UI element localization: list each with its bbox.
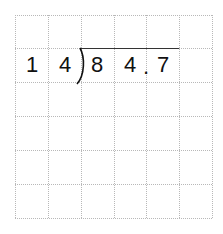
divisor-digit-ones: 4: [59, 54, 71, 76]
grid-line: [15, 218, 212, 219]
dividend-digit-ones: 4: [124, 54, 136, 76]
decimal-point: .: [143, 56, 149, 78]
divisor-digit-tens: 1: [26, 54, 38, 76]
grid-line: [15, 150, 212, 151]
division-grid: 1 4 8 4 . 7: [15, 15, 212, 218]
grid-line: [212, 15, 213, 218]
grid-line: [15, 184, 212, 185]
division-overline: [80, 48, 179, 49]
dividend-digit-tenths: 7: [157, 54, 169, 76]
grid-line: [15, 15, 212, 16]
grid-line: [15, 82, 212, 83]
dividend-digit-tens: 8: [91, 54, 103, 76]
grid-line: [15, 116, 212, 117]
division-bracket-icon: [75, 47, 85, 85]
